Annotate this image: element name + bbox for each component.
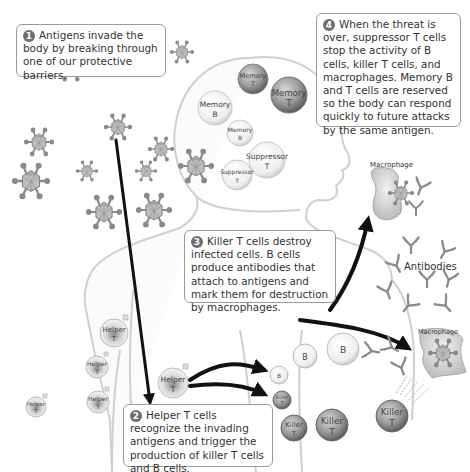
step-4-callout: 4When the threat is over, suppressor T c… — [316, 13, 461, 127]
step-number-badge: 3 — [191, 236, 203, 248]
cell-label: T — [94, 368, 99, 375]
cell-label: Helper — [87, 360, 107, 368]
step-number-badge: 4 — [323, 19, 335, 31]
cell-label: B — [277, 372, 281, 379]
step-2-callout: 2Helper T cells recognize the invading a… — [123, 404, 273, 467]
step-number-badge: 2 — [130, 410, 142, 422]
cell-label: T — [33, 408, 38, 414]
antibody-icon — [440, 270, 459, 289]
antigen-icon — [137, 194, 171, 226]
cell-label: Memory — [200, 100, 231, 109]
cell-label: Killer — [381, 407, 404, 417]
step-1-callout: 1Antigens invade the body by breaking th… — [16, 24, 166, 77]
cell-label: Helper — [27, 401, 46, 408]
cell-label: Suppressor — [220, 168, 254, 176]
helper-t-cell: Helper T — [86, 352, 108, 378]
antigen-icon — [87, 196, 121, 228]
helper-t-cell-active: Helper T — [158, 364, 188, 398]
cell-label: B — [238, 134, 242, 141]
cell-label: T — [388, 418, 395, 428]
antibody-icon — [434, 241, 455, 262]
step-3-callout: 3Killer T cells destroy infected cells. … — [184, 230, 336, 303]
cell-label: Helper — [88, 395, 108, 403]
immune-response-diagram: Memory T Memory T Memory B Memory B Supp… — [0, 0, 470, 472]
antibody-icon — [404, 238, 419, 254]
antibody-icon — [377, 281, 396, 301]
antibody-icon — [362, 342, 380, 360]
macrophage-label: Macrophage — [370, 161, 413, 169]
macrophage-bottom: Macrophage — [418, 328, 466, 378]
cell-label: B — [212, 110, 217, 119]
cell-label: Memory — [228, 126, 253, 134]
antibody-icon — [434, 294, 456, 316]
antigen-icon — [25, 129, 54, 156]
macrophage-top: Macrophage — [370, 161, 413, 220]
cell-label: Helper — [102, 326, 125, 334]
antigen-icon — [13, 164, 49, 198]
cell-label: Helper — [161, 375, 187, 384]
step-2-text: Helper T cells recognize the invading an… — [130, 409, 264, 472]
cell-label: T — [285, 98, 292, 108]
antigen-icon — [77, 161, 98, 181]
cell-label: T — [234, 177, 239, 184]
cell-label: Memory — [240, 72, 267, 80]
killer-t-cells: Killer T Killer T Killer T Killer T — [273, 376, 429, 441]
antigen-icon — [136, 161, 157, 181]
antibodies-label: Antibodies — [404, 261, 457, 272]
cell-label: T — [111, 335, 117, 343]
cell-label: B — [302, 353, 308, 362]
helper-t-cells: Helper T Helper T Helper T Helper T Help… — [26, 315, 188, 417]
antibody-icon — [409, 201, 422, 215]
cell-label: Memory — [272, 88, 307, 98]
antigen-icon — [105, 114, 132, 139]
antigen-icon — [171, 41, 194, 63]
cell-label: T — [250, 80, 255, 88]
step-number-badge: 1 — [23, 30, 35, 42]
arrow-helper-to-killer — [190, 384, 264, 394]
antibody-icon — [391, 357, 410, 377]
antibody-icon — [420, 272, 435, 288]
macrophage-label: Macrophage — [418, 328, 458, 336]
cell-label: B — [340, 345, 346, 355]
helper-t-cell: Helper T — [87, 387, 109, 413]
cell-label: T — [328, 427, 335, 437]
step-3-text: Killer T cells destroy infected cells. B… — [191, 235, 328, 313]
antigen-icon — [149, 137, 174, 160]
step-1-text: Antigens invade the body by breaking thr… — [23, 29, 158, 81]
arrow-helper-to-b — [190, 364, 264, 380]
step-4-text: When the threat is over, suppressor T ce… — [323, 18, 453, 136]
cell-label: Killer — [321, 416, 344, 426]
cell-label: Suppressor — [246, 152, 289, 161]
antibody-icon — [411, 177, 430, 197]
cell-label: T — [170, 385, 176, 394]
cell-label: T — [264, 162, 270, 171]
cell-label: Killer — [285, 421, 303, 429]
cell-label: T — [291, 430, 297, 438]
memory-b-cell-small — [227, 120, 253, 146]
b-cells: B B B — [270, 333, 359, 384]
suppressor-t-cell-small — [222, 160, 252, 190]
cell-label: T — [95, 403, 100, 410]
helper-t-cell: Helper T — [26, 394, 47, 417]
